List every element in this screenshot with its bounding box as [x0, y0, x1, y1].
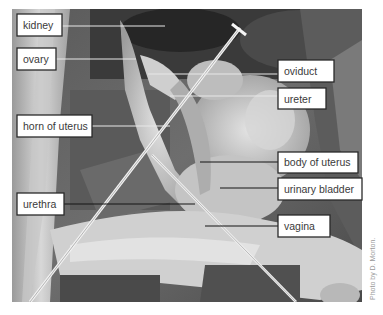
- label-oviduct: oviduct: [278, 60, 334, 82]
- label-kidney: kidney: [17, 14, 62, 36]
- label-text: oviduct: [284, 65, 317, 77]
- label-text: urinary bladder: [284, 183, 355, 195]
- dissection-figure: kidney ovary oviduct ureter horn of uter…: [0, 0, 383, 315]
- label-urethra: urethra: [17, 193, 64, 215]
- label-text: body of uterus: [284, 156, 351, 168]
- label-text: ovary: [23, 53, 49, 65]
- label-ureter: ureter: [278, 88, 326, 109]
- label-horn-of-uterus: horn of uterus: [17, 115, 92, 137]
- label-urinary-bladder: urinary bladder: [278, 178, 362, 200]
- label-text: kidney: [23, 19, 54, 31]
- label-ovary: ovary: [17, 48, 56, 70]
- photo-credit: Photo by D. Morton.: [369, 238, 377, 300]
- label-vagina: vagina: [278, 215, 330, 237]
- label-text: vagina: [284, 220, 315, 232]
- label-text: horn of uterus: [23, 120, 88, 132]
- label-text: urethra: [23, 198, 56, 210]
- label-body-of-uterus: body of uterus: [278, 152, 358, 173]
- label-text: ureter: [284, 93, 312, 105]
